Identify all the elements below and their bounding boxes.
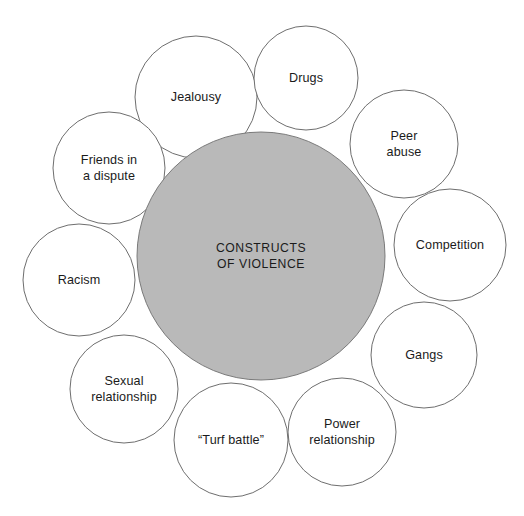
satellite-circle bbox=[288, 378, 396, 486]
satellite-circle bbox=[70, 335, 178, 443]
satellite-circle bbox=[394, 189, 506, 301]
diagram-shapes bbox=[0, 0, 524, 516]
satellite-circle bbox=[23, 224, 135, 336]
satellite-circle bbox=[254, 26, 358, 130]
satellite-circle bbox=[350, 90, 458, 198]
diagram-canvas: CONSTRUCTS OF VIOLENCE JealousyDrugsPeer… bbox=[0, 0, 524, 516]
satellite-circle bbox=[174, 383, 288, 497]
satellite-circle bbox=[371, 302, 477, 408]
center-circle bbox=[137, 132, 385, 380]
